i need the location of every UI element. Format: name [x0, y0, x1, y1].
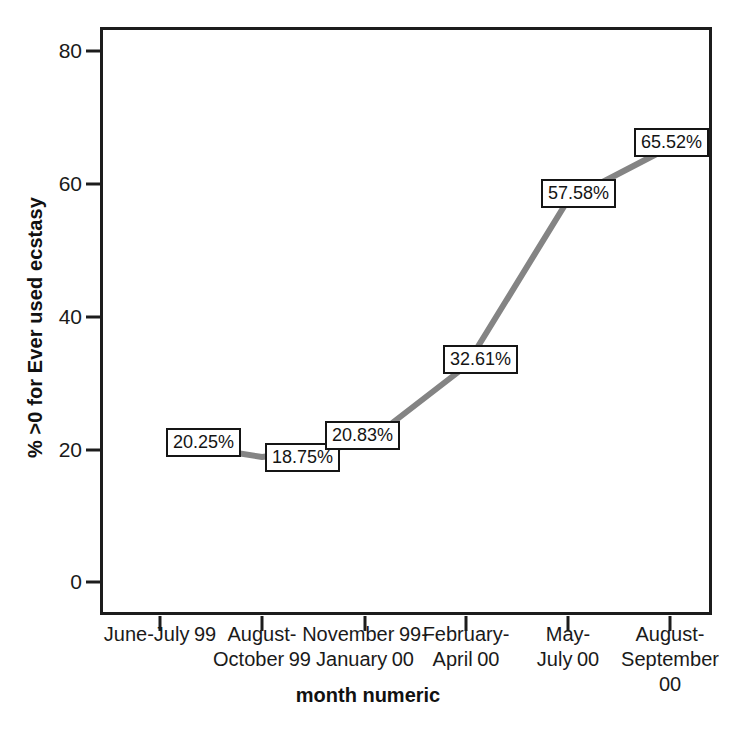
y-tick-label-0: 0: [26, 571, 82, 592]
y-axis-ticks: [86, 51, 101, 582]
data-label-2: 20.83%: [325, 421, 400, 450]
x-tick-label-5-line2: September: [595, 647, 736, 672]
x-tick-label-5-line1: August-: [595, 622, 736, 647]
data-label-0: 20.25%: [166, 428, 241, 457]
plot-area-frame: [100, 27, 712, 615]
x-axis-title: month numeric: [0, 684, 736, 707]
data-label-3: 32.61%: [443, 345, 518, 374]
y-tick-label-80: 80: [26, 40, 82, 61]
y-axis-title: % >0 for Ever used ecstasy: [24, 158, 47, 498]
data-label-5: 65.52%: [634, 128, 709, 157]
data-label-4: 57.58%: [541, 179, 616, 208]
chart-container: 80 60 40 20 0 % >0 for Ever used ecstasy…: [0, 0, 736, 730]
